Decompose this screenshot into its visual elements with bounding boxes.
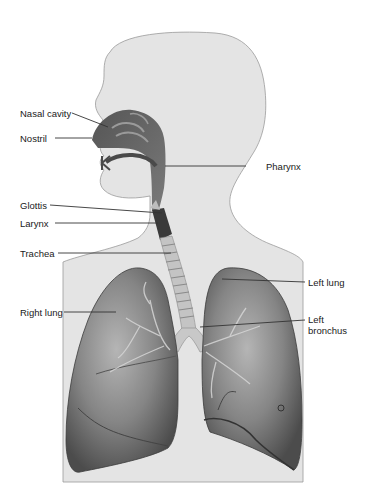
label-trachea: Trachea [20,248,55,259]
label-left-bronchus-line2: bronchus [308,325,347,336]
label-glottis: Glottis [20,200,47,211]
label-right-lung: Right lung [20,307,63,318]
label-left-bronchus: Left bronchus [308,314,347,336]
label-pharynx: Pharynx [266,161,301,172]
label-left-lung: Left lung [308,277,344,288]
label-larynx: Larynx [20,218,49,229]
label-left-bronchus-line1: Left [308,314,347,325]
respiratory-illustration [0,0,369,500]
label-nasal-cavity: Nasal cavity [20,108,71,119]
label-nostril: Nostril [20,133,47,144]
